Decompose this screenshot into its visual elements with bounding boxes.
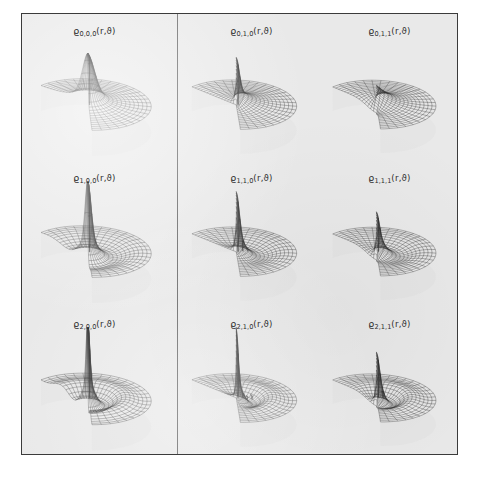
panel-caption: ϱ0,0,0(r,ϑ) [22,25,172,38]
panel-subscript: 1,1,1 [375,177,392,185]
surface-plot-grid: ϱ0,0,0(r,ϑ) ϱ0,1,0(r,ϑ) ϱ0,1,1(r,ϑ) ϱ1,0… [22,14,457,454]
panel-args: (r,ϑ) [96,319,115,329]
surface-panel: ϱ1,0,0(r,ϑ) [22,161,177,308]
surface-panel: ϱ0,0,0(r,ϑ) [22,14,177,161]
surface-panel: ϱ1,1,1(r,ϑ) [318,161,457,308]
panel-caption: ϱ0,1,0(r,ϑ) [181,25,318,38]
panel-caption: ϱ2,1,1(r,ϑ) [320,318,457,331]
surface-panel: ϱ1,1,0(r,ϑ) [177,161,318,308]
surface-plot [318,181,457,308]
panel-subscript: 1,0,0 [80,177,97,185]
panel-caption: ϱ2,0,0(r,ϑ) [22,318,172,331]
panel-caption: ϱ1,1,0(r,ϑ) [181,172,318,185]
panel-args: (r,ϑ) [391,319,410,329]
surface-plot [22,181,177,308]
panel-caption: ϱ2,1,0(r,ϑ) [181,318,318,331]
panel-caption: ϱ0,1,1(r,ϑ) [320,25,457,38]
panel-caption: ϱ1,0,0(r,ϑ) [22,172,172,185]
surface-plot [177,181,318,308]
panel-subscript: 0,1,0 [237,30,254,38]
panel-args: (r,ϑ) [253,319,272,329]
figure-panel: ϱ0,0,0(r,ϑ) ϱ0,1,0(r,ϑ) ϱ0,1,1(r,ϑ) ϱ1,0… [21,13,458,455]
panel-args: (r,ϑ) [391,26,410,36]
panel-subscript: 2,1,1 [375,323,392,331]
panel-args: (r,ϑ) [391,173,410,183]
surface-plot [318,34,457,161]
panel-args: (r,ϑ) [96,173,115,183]
panel-subscript: 0,0,0 [80,30,97,38]
panel-args: (r,ϑ) [253,26,272,36]
surface-panel: ϱ2,1,1(r,ϑ) [318,307,457,454]
surface-plot [22,34,177,161]
surface-plot [22,327,177,454]
panel-subscript: 1,1,0 [237,177,254,185]
panel-args: (r,ϑ) [96,26,115,36]
surface-plot [318,327,457,454]
panel-subscript: 2,1,0 [237,323,254,331]
surface-panel: ϱ0,1,0(r,ϑ) [177,14,318,161]
panel-subscript: 0,1,1 [375,30,392,38]
panel-caption: ϱ1,1,1(r,ϑ) [320,172,457,185]
surface-plot [177,34,318,161]
surface-plot [177,327,318,454]
surface-panel: ϱ2,1,0(r,ϑ) [177,307,318,454]
panel-args: (r,ϑ) [253,173,272,183]
surface-panel: ϱ0,1,1(r,ϑ) [318,14,457,161]
panel-subscript: 2,0,0 [80,323,97,331]
surface-panel: ϱ2,0,0(r,ϑ) [22,307,177,454]
